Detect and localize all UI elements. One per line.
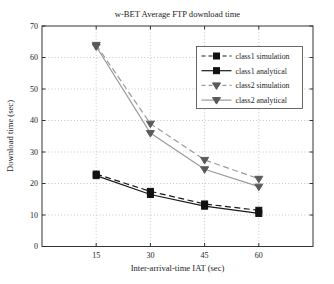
legend: class1 simulationclass1 analyticalclass2… bbox=[197, 47, 303, 109]
legend-label: class1 analytical bbox=[236, 67, 288, 76]
y-tick-label: 10 bbox=[30, 211, 38, 220]
legend-entry: class1 simulation bbox=[202, 52, 290, 61]
data-point-marker-class2-simulation bbox=[146, 121, 154, 128]
legend-label: class1 simulation bbox=[236, 52, 290, 61]
series-class1-simulation bbox=[93, 171, 262, 213]
y-axis-label: Download time (sec) bbox=[5, 100, 15, 172]
data-point-marker-class2-simulation bbox=[255, 176, 263, 183]
x-tick-label: 30 bbox=[146, 251, 154, 260]
data-point-marker-class1-analytical bbox=[256, 210, 262, 216]
x-tick-label: 60 bbox=[255, 251, 263, 260]
y-tick-label: 50 bbox=[30, 85, 38, 94]
y-tick-label: 40 bbox=[30, 116, 38, 125]
figure: 15304560010203040506070 class1 simulatio… bbox=[0, 0, 334, 284]
data-point-marker-class1-analytical bbox=[93, 173, 99, 179]
legend-marker-square-icon bbox=[214, 68, 220, 74]
legend-entry: class1 analytical bbox=[202, 67, 288, 76]
chart: 15304560010203040506070 class1 simulatio… bbox=[0, 0, 334, 284]
data-point-marker-class2-analytical bbox=[255, 184, 263, 191]
y-tick-label: 20 bbox=[30, 179, 38, 188]
data-point-marker-class1-analytical bbox=[147, 192, 153, 198]
data-point-marker-class1-analytical bbox=[202, 203, 208, 209]
series-line-class1-simulation bbox=[96, 174, 259, 210]
y-tick-label: 70 bbox=[30, 22, 38, 31]
legend-label: class2 analytical bbox=[236, 96, 288, 105]
chart-title: w-BET Average FTP download time bbox=[115, 9, 241, 19]
legend-label: class2 simulation bbox=[236, 81, 290, 90]
x-tick-label: 45 bbox=[201, 251, 209, 260]
y-tick-label: 0 bbox=[34, 242, 38, 251]
y-tick-label: 60 bbox=[30, 53, 38, 62]
data-point-marker-class2-analytical bbox=[146, 131, 154, 138]
x-tick-label: 15 bbox=[92, 251, 100, 260]
x-axis-label: Inter-arrival-time IAT (sec) bbox=[131, 263, 225, 273]
legend-marker-square-icon bbox=[214, 53, 220, 59]
y-tick-label: 30 bbox=[30, 148, 38, 157]
